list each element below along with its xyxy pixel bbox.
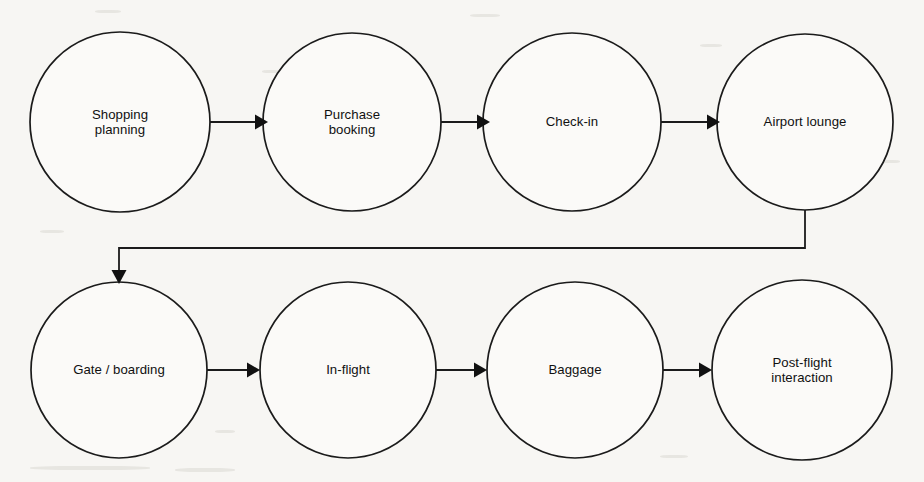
arrow-head-icon (699, 363, 712, 378)
flowchart-graphics (0, 0, 924, 482)
connector-lounge-to-gate (112, 210, 806, 284)
node-in-flight[interactable] (260, 282, 436, 458)
connector-gate-to-inflight (207, 363, 260, 378)
connector-checkin-to-lounge (661, 115, 720, 130)
node-post-flight-interaction[interactable] (712, 280, 892, 460)
node-baggage[interactable] (487, 282, 663, 458)
node-gate-boarding[interactable] (31, 282, 207, 458)
node-shopping-planning[interactable] (30, 32, 210, 212)
arrow-head-icon (474, 363, 487, 378)
node-purchase-booking[interactable] (263, 33, 441, 211)
connector-baggage-to-postflight (663, 363, 712, 378)
connector-inflight-to-baggage (436, 363, 487, 378)
arrow-head-icon (247, 363, 260, 378)
node-airport-lounge[interactable] (717, 34, 893, 210)
flowchart-canvas: Shopping planning Purchase booking Check… (0, 0, 924, 482)
node-check-in[interactable] (483, 33, 661, 211)
connector-shopping-to-purchase (210, 115, 268, 130)
